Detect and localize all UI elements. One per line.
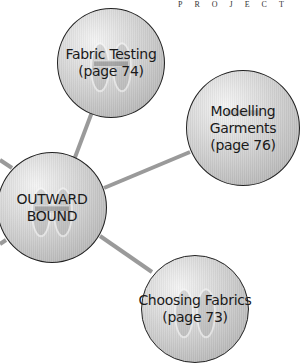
connector-to-modelling-garments: [104, 152, 190, 188]
node-choosing-fabrics[interactable]: Choosing Fabrics (page 73): [141, 255, 249, 363]
connector-offscreen-upper: [0, 160, 12, 168]
node-label: Choosing Fabrics (page 73): [138, 292, 251, 326]
node-label: Fabric Testing (page 74): [65, 46, 156, 80]
node-modelling-garments[interactable]: Modelling Garments (page 76): [186, 70, 300, 186]
node-label: OUTWARD BOUND: [17, 191, 88, 225]
node-fabric-testing[interactable]: Fabric Testing (page 74): [57, 8, 165, 118]
connector-offscreen-lower: [0, 240, 6, 244]
connector-to-choosing-fabrics: [100, 236, 152, 272]
connector-to-fabric-testing: [74, 112, 92, 160]
node-outward-bound[interactable]: OUTWARD BOUND: [0, 152, 107, 263]
node-label: Modelling Garments (page 76): [210, 103, 276, 154]
